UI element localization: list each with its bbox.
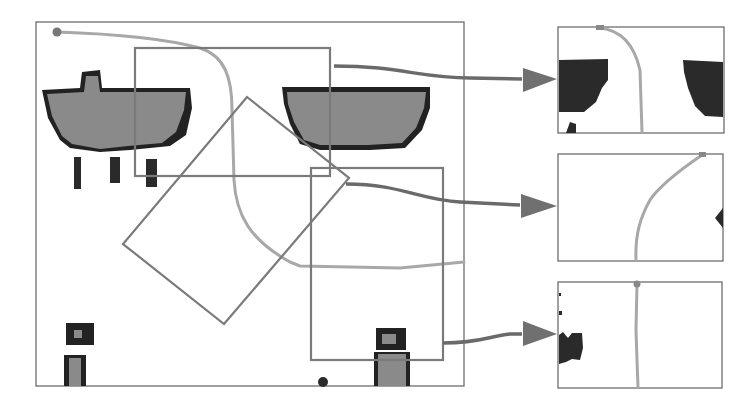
inset-3-obstacle-left [559, 332, 583, 364]
obstacle-right-large [282, 87, 430, 150]
obstacle-small-dot [318, 377, 328, 387]
inset-2-frame [558, 154, 723, 261]
diagram-canvas [0, 0, 756, 410]
arrowhead-3-icon [523, 321, 557, 346]
inset-2 [558, 152, 723, 261]
inset-3-path-marker [634, 281, 641, 288]
inset-1 [558, 25, 724, 133]
arrowhead-2-icon [521, 194, 557, 218]
start-point-icon [53, 28, 62, 37]
inset-2-path-marker [699, 152, 706, 157]
inset-3-frame [558, 282, 722, 388]
inset-3-obstacle-speck-2 [559, 311, 562, 315]
inset-3 [558, 281, 722, 389]
inset-1-path-marker [596, 25, 604, 30]
main-map [36, 22, 464, 387]
obstacle-bottom-center [374, 328, 410, 386]
inset-3-obstacle-speck-1 [559, 293, 561, 296]
arrowhead-1-icon [523, 68, 557, 92]
